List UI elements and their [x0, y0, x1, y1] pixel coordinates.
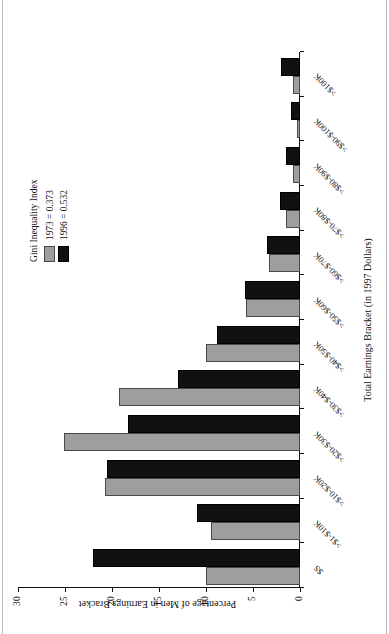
- x-axis-tick-mark: [300, 185, 304, 186]
- x-axis-tick-mark: [300, 364, 304, 365]
- x-axis-tick-mark: [300, 51, 304, 52]
- x-axis-tick-label: >$20-$30K: [311, 429, 389, 507]
- x-axis-tick-mark: [300, 230, 304, 231]
- y-axis-tick-label: 5: [247, 596, 257, 624]
- x-axis-tick-label: >$70-$80K: [311, 206, 389, 284]
- y-axis-tick-label: 30: [12, 596, 22, 624]
- bar-1973: [293, 76, 300, 94]
- legend-label-1973: 1973 = 0.373: [45, 190, 55, 240]
- x-axis-tick-label: >$1-$10K: [311, 518, 389, 596]
- y-axis-tick-mark: [253, 588, 254, 592]
- x-axis-tick-label: $S: [311, 563, 389, 634]
- bar-1996: [281, 58, 300, 76]
- x-axis-tick-label: >$40-$50K: [311, 340, 389, 418]
- y-axis-tick-label: 10: [200, 596, 210, 624]
- x-axis-tick-mark: [300, 498, 304, 499]
- legend-title: Gini Inequality Index: [28, 114, 39, 262]
- y-axis-tick-mark: [65, 588, 66, 592]
- x-axis-tick-label: >$90-$100K: [311, 116, 389, 194]
- x-axis-tick-mark: [300, 453, 304, 454]
- y-axis-tick-mark: [112, 588, 113, 592]
- y-axis-tick-label: 0: [294, 596, 304, 624]
- legend-label-1996: 1996 = 0.532: [59, 190, 69, 240]
- y-axis-tick-label: 25: [59, 596, 69, 624]
- x-axis-tick-label: >$100K: [311, 72, 389, 150]
- x-axis-tick-label: >$50-$60K: [311, 295, 389, 373]
- chart-legend: Gini Inequality Index 1973 = 0.373 1996 …: [28, 114, 72, 262]
- x-axis-tick-label: >$60-$70K: [311, 250, 389, 328]
- x-axis-tick-mark: [300, 587, 304, 588]
- legend-swatch-1973: [44, 246, 55, 262]
- legend-item-1973: 1973 = 0.373: [44, 114, 55, 262]
- y-axis-tick-mark: [300, 588, 301, 592]
- rotated-figure-wrapper: Percentage of Men in Earnings Bracket To…: [0, 0, 389, 634]
- y-axis-tick-mark: [206, 588, 207, 592]
- legend-item-1996: 1996 = 0.532: [58, 114, 69, 262]
- x-axis-tick-mark: [300, 96, 304, 97]
- y-axis-tick-label: 20: [106, 596, 116, 624]
- figure-page: Percentage of Men in Earnings Bracket To…: [0, 0, 389, 634]
- x-axis-tick-mark: [300, 274, 304, 275]
- legend-swatch-1996: [58, 246, 69, 262]
- y-axis-tick-mark: [18, 588, 19, 592]
- x-axis-tick-mark: [300, 408, 304, 409]
- y-axis-tick-mark: [159, 588, 160, 592]
- x-axis-tick-label: >$10-$20K: [311, 474, 389, 552]
- bar-chart-figure: Percentage of Men in Earnings Bracket To…: [0, 0, 389, 634]
- x-axis-tick-label: >$80-$90K: [311, 161, 389, 239]
- x-axis-tick-label: >$30-$40K: [311, 384, 389, 462]
- x-axis-tick-mark: [300, 140, 304, 141]
- y-axis-tick-label: 15: [153, 596, 163, 624]
- x-axis-tick-mark: [300, 542, 304, 543]
- x-axis-tick-mark: [300, 319, 304, 320]
